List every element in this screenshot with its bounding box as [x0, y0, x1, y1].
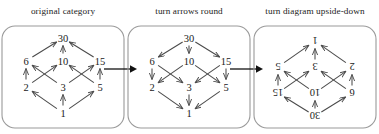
- lattice-edge: [158, 42, 182, 57]
- lattice-svg: 30610152351: [126, 24, 252, 130]
- panel-caption: turn arrows round: [126, 6, 252, 17]
- lattice-node-6: 6: [349, 87, 354, 98]
- lattice-figure: 30610152351: [0, 24, 126, 130]
- lattice-edge: [321, 97, 345, 112]
- lattice-node-3: 3: [186, 82, 191, 93]
- lattice-node-15: 15: [273, 87, 284, 98]
- lattice-node-6: 6: [149, 56, 154, 67]
- lattice-node-30: 30: [58, 33, 69, 44]
- lattice-node-1: 1: [312, 35, 317, 46]
- lattice-node-10: 10: [310, 87, 321, 98]
- lattice-edge: [284, 97, 308, 112]
- panel-turn-diagram-upside-down: turn diagram upside-down 30610152351: [252, 0, 378, 134]
- lattice-figure: 30610152351: [126, 24, 252, 130]
- lattice-edge: [32, 91, 57, 108]
- lattice-node-2: 2: [149, 82, 154, 93]
- lattice-node-2: 2: [23, 82, 28, 93]
- lattice-node-3: 3: [312, 61, 317, 72]
- lattice-svg: 30610152351: [252, 24, 378, 130]
- lattice-svg: 30610152351: [0, 24, 126, 130]
- lattice-edge: [32, 42, 56, 57]
- lattice-node-1: 1: [186, 108, 191, 119]
- edge-group: [152, 42, 226, 109]
- lattice-node-5: 5: [275, 61, 280, 72]
- node-group: 30610152351: [149, 33, 231, 119]
- lattice-node-5: 5: [97, 82, 102, 93]
- lattice-node-2: 2: [349, 61, 354, 72]
- lattice-node-10: 10: [184, 56, 195, 67]
- lattice-node-1: 1: [60, 108, 65, 119]
- panel-caption: turn diagram upside-down: [252, 6, 378, 17]
- edge-group: [278, 45, 352, 112]
- lattice-figure: 30610152351: [252, 24, 378, 130]
- edge-group: [26, 42, 100, 109]
- lattice-edge: [284, 45, 309, 62]
- lattice-edge: [69, 91, 94, 108]
- lattice-edge: [158, 91, 183, 108]
- node-group: 30610152351: [23, 33, 105, 119]
- node-group: 30610152351: [273, 35, 355, 121]
- lattice-node-10: 10: [58, 56, 69, 67]
- lattice-edge: [69, 42, 93, 57]
- lattice-node-30: 30: [184, 33, 195, 44]
- lattice-node-5: 5: [223, 82, 228, 93]
- lattice-node-30: 30: [310, 110, 321, 121]
- lattice-edge: [195, 42, 219, 57]
- lattice-node-3: 3: [60, 82, 65, 93]
- panel-caption: original category: [0, 6, 126, 17]
- lattice-edge: [195, 91, 220, 108]
- lattice-node-6: 6: [23, 56, 28, 67]
- lattice-edge: [321, 45, 346, 62]
